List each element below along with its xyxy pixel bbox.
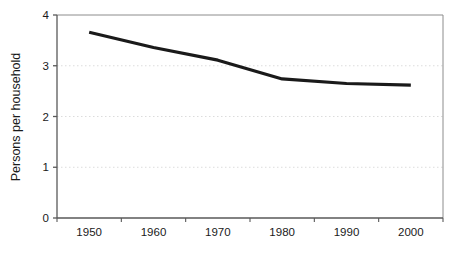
y-axis-tick-labels: 01234 <box>43 9 50 224</box>
x-axis-tick-labels: 195019601970198019902000 <box>76 226 423 238</box>
y-axis-tick-label: 2 <box>43 111 49 123</box>
x-axis-tick-label: 1950 <box>76 226 102 238</box>
y-axis-title: Persons per household <box>9 53 23 182</box>
y-axis-tick-label: 1 <box>43 161 49 173</box>
chart-figure: 01234 195019601970198019902000 Persons p… <box>0 0 454 259</box>
y-axis-tick-label: 0 <box>43 212 49 224</box>
x-axis-tick-label: 1970 <box>205 226 231 238</box>
line-chart[interactable]: 01234 195019601970198019902000 Persons p… <box>0 0 454 259</box>
x-axis-tick-label: 1980 <box>269 226 295 238</box>
y-axis-tick-label: 3 <box>43 60 49 72</box>
x-axis-tick-label: 1960 <box>141 226 167 238</box>
x-axis-tick-label: 2000 <box>398 226 424 238</box>
y-axis-tick-label: 4 <box>43 9 50 21</box>
x-axis-tick-label: 1990 <box>334 226 360 238</box>
